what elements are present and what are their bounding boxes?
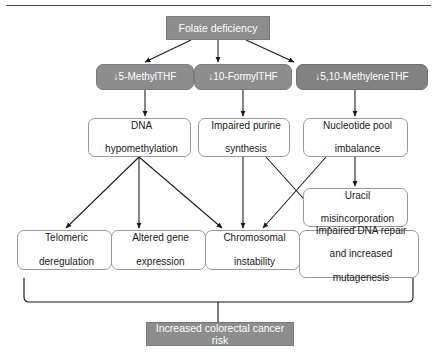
uracil-misincorporation-line1: Uracil xyxy=(306,190,409,202)
chromosomal-instability-label: Chromosomal instability xyxy=(206,232,299,267)
node-impaired-purine-synthesis[interactable]: Impaired purine synthesis xyxy=(198,118,290,157)
telomeric-deregulation-label: Telomeric deregulation xyxy=(18,232,111,267)
node-5-methylthf[interactable]: ↓5-MethylTHF xyxy=(96,64,194,90)
diagram-canvas: Folate deficiency ↓5-MethylTHF ↓10-Formy… xyxy=(0,0,437,359)
chromosomal-instability-line2: instability xyxy=(208,256,301,268)
dna-hypomethylation-label: DNA hypomethylation xyxy=(89,120,190,155)
telomeric-deregulation-line2: deregulation xyxy=(20,256,113,268)
impaired-dna-repair-line3: mutagenesis xyxy=(302,272,420,284)
node-altered-gene-expression[interactable]: Altered gene expression xyxy=(111,230,206,270)
increased-colorectal-cancer-risk-label: Increased colorectal cancer risk xyxy=(147,322,293,347)
node-nucleotide-pool-imbalance[interactable]: Nucleotide pool imbalance xyxy=(303,118,408,157)
chromosomal-instability-line1: Chromosomal xyxy=(208,232,301,244)
node-increased-colorectal-cancer-risk[interactable]: Increased colorectal cancer risk xyxy=(146,322,294,346)
connector-layer xyxy=(0,0,437,359)
altered-gene-expression-line2: expression xyxy=(114,256,207,268)
impaired-dna-repair-line2: and increased xyxy=(302,248,420,260)
node-impaired-dna-repair[interactable]: Impaired DNA repair and increased mutage… xyxy=(299,230,419,278)
nucleotide-pool-imbalance-line2: imbalance xyxy=(306,143,409,155)
dna-hypomethylation-line1: DNA xyxy=(91,120,192,132)
uracil-misincorporation-label: Uracil misincorporation xyxy=(304,190,407,225)
nucleotide-pool-imbalance-line1: Nucleotide pool xyxy=(306,120,409,132)
5-10-methylenethf-label: ↓5,10-MethyleneTHF xyxy=(297,71,427,83)
node-dna-hypomethylation[interactable]: DNA hypomethylation xyxy=(88,118,191,157)
impaired-purine-synthesis-line1: Impaired purine xyxy=(201,120,291,132)
uracil-misincorporation-line2: misincorporation xyxy=(306,213,409,225)
folate-deficiency-label: Folate deficiency xyxy=(167,22,269,34)
dna-hypomethylation-line2: hypomethylation xyxy=(91,143,192,155)
10-formylthf-label: ↓10-FormylTHF xyxy=(195,71,291,83)
altered-gene-expression-line1: Altered gene xyxy=(114,232,207,244)
impaired-dna-repair-line1: Impaired DNA repair xyxy=(302,225,420,237)
node-10-formylthf[interactable]: ↓10-FormylTHF xyxy=(194,64,292,90)
impaired-purine-synthesis-label: Impaired purine synthesis xyxy=(199,120,289,155)
top-divider-rule xyxy=(6,5,431,6)
node-chromosomal-instability[interactable]: Chromosomal instability xyxy=(205,230,300,270)
5-methylthf-label: ↓5-MethylTHF xyxy=(97,71,193,83)
node-folate-deficiency[interactable]: Folate deficiency xyxy=(166,16,270,40)
node-5-10-methylenethf[interactable]: ↓5,10-MethyleneTHF xyxy=(296,64,428,90)
impaired-dna-repair-label: Impaired DNA repair and increased mutage… xyxy=(300,225,418,284)
altered-gene-expression-label: Altered gene expression xyxy=(112,232,205,267)
impaired-purine-synthesis-line2: synthesis xyxy=(201,143,291,155)
nucleotide-pool-imbalance-label: Nucleotide pool imbalance xyxy=(304,120,407,155)
node-uracil-misincorporation[interactable]: Uracil misincorporation xyxy=(303,188,408,227)
node-telomeric-deregulation[interactable]: Telomeric deregulation xyxy=(17,230,112,270)
telomeric-deregulation-line1: Telomeric xyxy=(20,232,113,244)
